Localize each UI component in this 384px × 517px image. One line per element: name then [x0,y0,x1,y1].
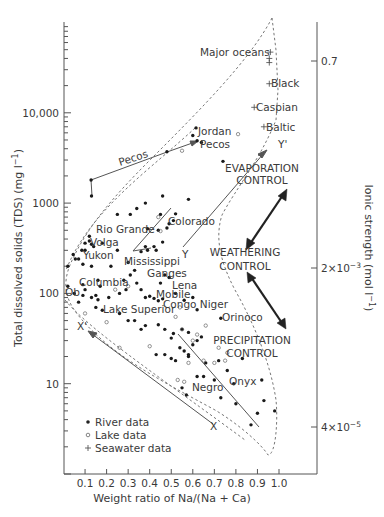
lake-point [236,132,239,135]
label-lake-superior: Lake Superior [103,303,176,315]
river-point [154,353,157,356]
lake-point [176,378,179,381]
river-point [135,281,138,284]
lake-point [191,339,194,342]
river-point [163,328,166,331]
label-y-prime: Y' [277,138,287,150]
river-point [256,412,259,415]
x-tick-label: 0.3 [120,477,137,489]
label-weathering-2: CONTROL [219,260,270,272]
river-point [154,249,157,252]
river-point [226,369,229,372]
label-weathering-1: WEATHERING [210,246,281,258]
river-point [195,339,198,342]
y-arrowhead [258,150,267,158]
river-point [165,150,168,153]
river-point [144,296,147,299]
river-point [148,295,151,298]
river-point [273,409,276,412]
river-point [89,178,92,181]
river-point [170,357,173,360]
x-ticks [85,469,279,474]
river-point [195,375,198,378]
lake-point [105,320,108,323]
legend-seawater-marker [85,445,91,451]
y-tick-label-10: 10 [46,378,59,390]
river-point [146,249,149,252]
label-evaporation-2: CONTROL [236,174,287,186]
label-ob: Ob [65,286,80,298]
lake-point [217,346,220,349]
river-point [185,393,188,396]
river-point [107,296,110,299]
x-tick-label: 0.8 [228,477,245,489]
river-point [116,249,119,252]
river-point [200,335,203,338]
river-point [94,306,97,309]
lake-point [157,215,160,218]
legend-seawater-label: Seawater data [95,442,171,454]
label-y: Y [181,248,189,260]
y-tick-label-1000: 1000 [32,197,59,209]
label-major-oceans: Major oceans [200,46,270,58]
river-point [182,349,185,352]
x-axis-title: Weight ratio of Na/(Na + Ca) [93,492,251,505]
lake-point [202,359,205,362]
label-mississippi: Mississippi [124,255,180,267]
river-point [74,257,77,260]
label-colorado: Colorado [168,215,215,227]
evaporation-weathering-arrow [250,195,283,244]
river-point [90,296,93,299]
y2-tick-label-4e-5: 4×10−5 [321,420,361,433]
river-point [118,292,121,295]
x-tick-label: 0.7 [206,477,223,489]
river-point [144,245,147,248]
river-point [234,402,237,405]
river-point [157,323,160,326]
legend: River data Lake data Seawater data [85,416,171,454]
lake-point [223,359,226,362]
river-point [191,343,194,346]
river-point [161,240,164,243]
y-minor-ticks [64,27,71,474]
x-tick-label: 0.2 [98,477,115,489]
x-tick-label: 0.6 [184,477,201,489]
river-point [187,355,190,358]
x-tick-label: 0.4 [141,477,158,489]
label-precipitation-1: PRECIPITATION [213,334,291,346]
river-point [195,139,198,142]
label-evaporation-1: EVAPORATION [225,162,299,174]
label-precipitation-2: CONTROL [226,347,277,359]
river-point [217,359,220,362]
legend-lake-label: Lake data [95,429,146,441]
river-point [187,198,190,201]
x-tick-label: 0.9 [249,477,266,489]
y2-tick-label-2e-3: 2×10−3 [321,261,361,274]
lake-point [114,288,117,291]
label-x: X [210,420,217,432]
x-tick-labels: 0.10.20.30.40.50.60.70.80.91.0 [77,477,288,489]
legend-lake-marker [86,433,90,437]
label-jordan: Jordan [197,125,231,137]
lake-point [118,346,121,349]
gibbs-diagram: 10,000 1000 100 10 0.10.20.30.40.50.60.7… [0,0,384,517]
arrowhead-down-2 [277,318,286,329]
river-point [159,281,162,284]
river-point [163,353,166,356]
river-point [94,294,97,297]
x-tick-label: 1.0 [271,477,288,489]
river-point [260,378,263,381]
river-point [139,250,142,253]
river-point [144,201,147,204]
lake-point [148,345,151,348]
legend-river-label: River data [95,416,149,428]
river-point [202,375,205,378]
x-trend-line [92,334,213,424]
river-point [83,241,86,244]
river-point [157,229,160,232]
label-volga: Volga [90,236,119,248]
river-point [81,294,84,297]
river-point [77,300,80,303]
y2-axis-title: Ionic strength (mol l−1) [362,185,376,312]
river-point [90,194,93,197]
